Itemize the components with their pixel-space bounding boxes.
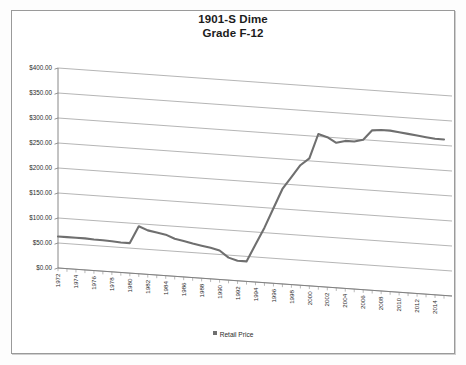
x-axis-tick-label: 2012 [413,298,420,312]
chart-legend: Retail Price [0,330,466,338]
y-axis-tick [55,143,59,144]
x-axis-tick-label: 1982 [144,279,151,293]
x-axis-tick-label: 1986 [180,282,187,296]
x-axis-tick-label: 1978 [108,277,115,291]
line-chart: $0.00$50.00$100.00$150.00$200.00$250.00$… [0,0,466,365]
y-axis-tick-label: $400.00 [29,64,52,71]
x-axis-tick-label: 1974 [72,274,79,288]
y-axis-tick [55,93,59,94]
legend-swatch-retail-price [213,331,217,335]
y-axis-tick-label: $50.00 [33,239,53,246]
y-axis: $0.00$50.00$100.00$150.00$200.00$250.00$… [29,64,58,271]
y-axis-tick-label: $250.00 [29,139,52,146]
y-axis-tick [55,168,59,169]
y-axis-tick-label: $150.00 [29,189,52,196]
x-axis-tick-label: 2014 [431,300,438,314]
x-axis-tick-label: 1980 [126,278,133,292]
x-axis-tick-label: 1996 [270,288,277,302]
x-axis-tick-label: 1998 [288,290,295,304]
y-axis-tick [55,268,59,269]
x-axis-tick-label: 2006 [359,295,366,309]
x-axis-tick-label: 1984 [162,281,169,295]
y-axis-tick [55,68,59,69]
x-axis-tick-label: 1990 [216,284,223,298]
chart-page: 1901-S Dime Grade F-12 $0.00$50.00$100.0… [0,0,466,365]
y-axis-tick-label: $350.00 [29,89,52,96]
y-axis-tick-label: $300.00 [29,114,52,121]
y-axis-tick [55,193,59,194]
x-axis-tick-label: 1976 [90,275,97,289]
x-axis-tick-label: 1994 [252,287,259,301]
x-axis-tick-label: 2000 [306,291,313,305]
y-axis-tick-label: $0.00 [36,264,52,271]
x-axis: 1972197419761978198019821984198619881990… [54,268,452,314]
grid-line [58,193,452,221]
grid-line [58,93,452,121]
grid-line [58,143,452,171]
grid-line [58,68,452,96]
x-axis-tick-label: 1992 [234,286,241,300]
y-axis-tick [55,218,59,219]
y-axis-tick-label: $100.00 [29,214,52,221]
x-axis-tick-label: 2004 [341,293,348,307]
series-line-retail-price [58,130,444,261]
grid-lines [58,68,452,296]
legend-label-retail-price: Retail Price [220,331,254,338]
x-axis-tick-label: 2002 [324,292,331,306]
y-axis-tick [55,243,59,244]
y-axis-tick-label: $200.00 [29,164,52,171]
x-axis-tick-label: 2010 [395,297,402,311]
grid-line [58,168,452,196]
x-axis-tick-label: 1988 [198,283,205,297]
x-axis-tick-label: 1972 [54,273,61,287]
y-axis-tick [55,118,59,119]
x-axis-tick-label: 2008 [377,296,384,310]
